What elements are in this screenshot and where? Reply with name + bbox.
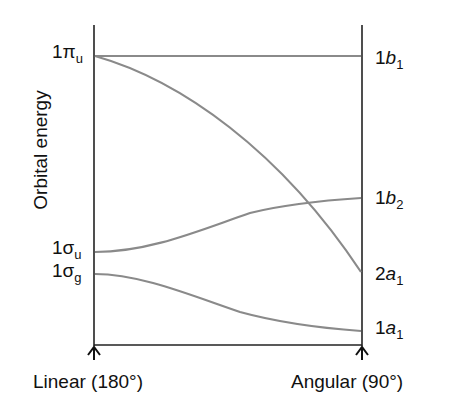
correlation-1sg-1a1 [95,274,361,331]
level-symbol: σ [63,260,75,281]
level-label-1a1: 1a1 [375,318,403,337]
x-label-angular: Angular (90°) [291,371,403,393]
level-symbol: π [63,41,76,62]
level-subscript: u [74,247,81,262]
level-subscript: 2 [396,197,403,212]
level-symbol: σ [63,237,75,258]
level-number: 1 [375,47,386,68]
level-number: 2 [375,263,386,284]
level-number: 1 [375,187,386,208]
level-number: 1 [52,237,63,258]
level-subscript: 1 [396,327,403,342]
level-symbol: b [386,47,397,68]
level-label-2a1: 2a1 [375,264,403,283]
level-symbol: a [386,317,397,338]
level-subscript: g [74,270,81,285]
arrow-up-icon-right [356,347,368,360]
level-label-1b1: 1b1 [375,48,403,67]
y-axis-label: Orbital energy [30,90,52,209]
level-number: 1 [375,317,386,338]
x-label-linear: Linear (180°) [33,371,143,393]
level-subscript: 1 [396,57,403,72]
level-number: 1 [52,41,63,62]
arrow-up-icon-left [88,347,100,360]
level-number: 1 [52,260,63,281]
correlation-1su-1b2 [95,198,361,252]
level-symbol: b [386,187,397,208]
level-subscript: u [76,51,83,66]
correlation-1pu-2a1 [95,56,361,272]
level-label-1su: 1σu [52,238,82,257]
level-label-1b2: 1b2 [375,188,403,207]
level-subscript: 1 [396,273,403,288]
level-label-1pu: 1πu [52,42,83,61]
level-label-1sg: 1σg [52,261,82,280]
level-symbol: a [386,263,397,284]
